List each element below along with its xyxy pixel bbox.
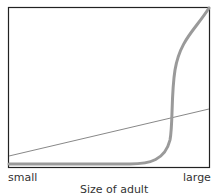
linear-line (9, 109, 209, 156)
x-axis-title: Size of adult (80, 183, 148, 195)
sigmoid-curve (9, 8, 209, 164)
x-tick-large: large (183, 171, 211, 184)
x-tick-small: small (8, 171, 37, 184)
plot-frame (9, 8, 210, 168)
chart-plot (0, 0, 220, 195)
